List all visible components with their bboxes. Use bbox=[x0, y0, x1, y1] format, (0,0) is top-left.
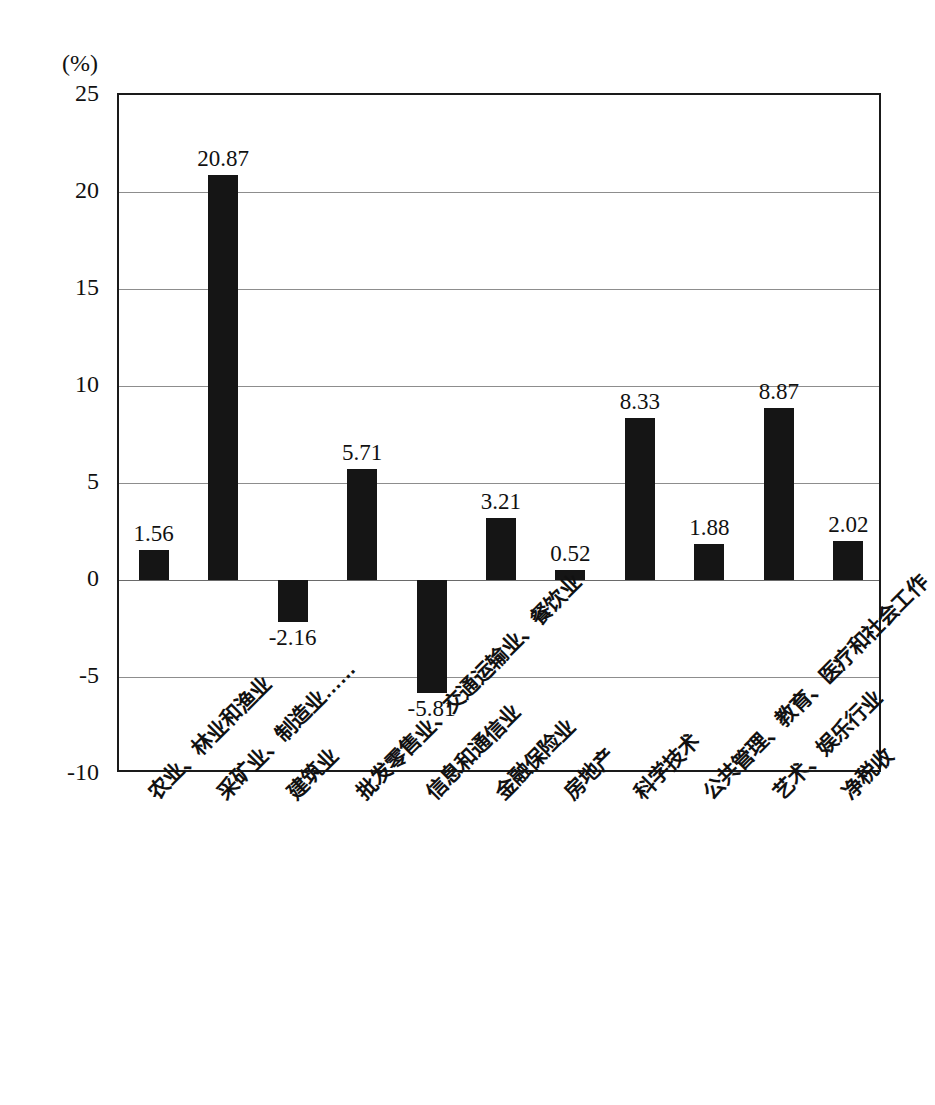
bar-value-label: 2.02 bbox=[828, 513, 868, 536]
bar-group[interactable]: 5.71 bbox=[327, 95, 396, 770]
bar-group[interactable]: 1.88 bbox=[675, 95, 744, 770]
y-tick-label-25: 25 bbox=[75, 80, 99, 107]
bar-group[interactable]: -5.81 bbox=[397, 95, 466, 770]
bar-value-label: -2.16 bbox=[269, 626, 317, 649]
bar-value-label: 1.88 bbox=[689, 516, 729, 539]
bar[interactable] bbox=[625, 418, 655, 580]
bar-series: 1.5620.87-2.165.71-5.813.210.528.331.888… bbox=[119, 95, 879, 770]
bar-value-label: 5.71 bbox=[342, 441, 382, 464]
bar-group[interactable]: 0.52 bbox=[536, 95, 605, 770]
bar[interactable] bbox=[208, 175, 238, 580]
bar-value-label: 3.21 bbox=[481, 490, 521, 513]
bar[interactable] bbox=[417, 580, 447, 693]
chart-figure: (%) -10-50510152025 1.5620.87-2.165.71-5… bbox=[0, 0, 935, 1105]
bar-group[interactable]: 8.87 bbox=[744, 95, 813, 770]
bar[interactable] bbox=[764, 408, 794, 580]
y-axis-unit-label: (%) bbox=[62, 50, 98, 77]
bar[interactable] bbox=[833, 541, 863, 580]
bar-value-label: 20.87 bbox=[197, 147, 249, 170]
y-tick-label-10: 10 bbox=[75, 371, 99, 398]
bar-group[interactable]: 1.56 bbox=[119, 95, 188, 770]
bar-value-label: 0.52 bbox=[550, 542, 590, 565]
y-axis-tick-labels: -10-50510152025 bbox=[0, 93, 117, 772]
bar[interactable] bbox=[694, 544, 724, 580]
y-tick-label--10: -10 bbox=[67, 759, 99, 786]
bar-value-label: -5.81 bbox=[408, 697, 456, 720]
y-tick-label-15: 15 bbox=[75, 274, 99, 301]
bar-group[interactable]: 8.33 bbox=[605, 95, 674, 770]
bar-group[interactable]: 3.21 bbox=[466, 95, 535, 770]
y-tick-label-0: 0 bbox=[87, 565, 99, 592]
bar-group[interactable]: 2.02 bbox=[814, 95, 883, 770]
bar-value-label: 8.33 bbox=[620, 390, 660, 413]
y-tick-label-5: 5 bbox=[87, 468, 99, 495]
bar[interactable] bbox=[347, 469, 377, 580]
bar[interactable] bbox=[486, 518, 516, 580]
bar-value-label: 1.56 bbox=[134, 522, 174, 545]
y-tick-label-20: 20 bbox=[75, 177, 99, 204]
bar[interactable] bbox=[555, 570, 585, 580]
bar[interactable] bbox=[278, 580, 308, 622]
bar-group[interactable]: 20.87 bbox=[188, 95, 257, 770]
y-tick-label--5: -5 bbox=[79, 662, 99, 689]
bar[interactable] bbox=[139, 550, 169, 580]
bar-group[interactable]: -2.16 bbox=[258, 95, 327, 770]
bar-value-label: 8.87 bbox=[759, 380, 799, 403]
plot-area: 1.5620.87-2.165.71-5.813.210.528.331.888… bbox=[117, 93, 881, 772]
